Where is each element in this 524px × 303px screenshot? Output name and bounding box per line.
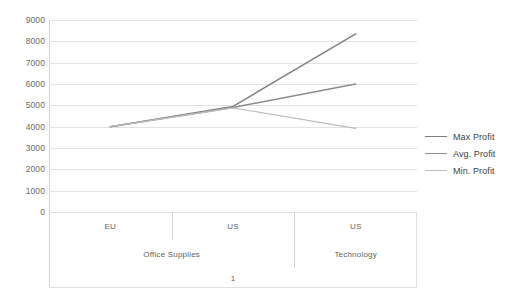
- y-axis-tick-label: 5000: [1, 101, 45, 110]
- category-axis-row: Office SuppliesTechnology: [49, 240, 417, 268]
- series-line: [110, 108, 355, 128]
- legend-item-label: Avg. Profit: [453, 149, 495, 159]
- series-line: [110, 84, 355, 127]
- y-axis-tick-label: 1000: [1, 186, 45, 195]
- category-axis-row: EUUSUS: [49, 212, 417, 240]
- category-axis-label: Technology: [294, 240, 417, 268]
- legend-line-icon: [425, 136, 447, 138]
- y-axis-tick-label: 9000: [1, 16, 45, 25]
- category-axis-table: EUUSUSOffice SuppliesTechnology1: [49, 212, 417, 288]
- legend-item[interactable]: Min. Profit: [425, 162, 524, 179]
- category-axis-label: 1: [49, 268, 417, 288]
- y-axis-tick-label: 2000: [1, 165, 45, 174]
- y-axis-tick-label: 7000: [1, 58, 45, 67]
- line-chart: 9000800070006000500040003000200010000 EU…: [0, 0, 524, 303]
- legend-item-label: Min. Profit: [453, 166, 495, 176]
- legend-item-label: Max Profit: [453, 132, 495, 142]
- y-axis-tick-label: 4000: [1, 122, 45, 131]
- category-axis-row: 1: [49, 268, 417, 288]
- category-axis-label: US: [172, 212, 295, 240]
- category-axis-label: US: [294, 212, 417, 240]
- y-axis-tick-label: 8000: [1, 37, 45, 46]
- category-axis-separator: [172, 212, 173, 240]
- legend-item[interactable]: Max Profit: [425, 128, 524, 145]
- category-axis-label: Office Supplies: [49, 240, 294, 268]
- y-axis-tick-label: 6000: [1, 80, 45, 89]
- category-axis-separator: [294, 212, 295, 268]
- series-lines: [49, 20, 417, 212]
- y-axis: 9000800070006000500040003000200010000: [0, 0, 45, 303]
- plot-area: [49, 20, 417, 212]
- legend-line-icon: [425, 170, 447, 172]
- series-line: [110, 34, 355, 127]
- y-axis-tick-label: 3000: [1, 144, 45, 153]
- legend-item[interactable]: Avg. Profit: [425, 145, 524, 162]
- y-axis-tick-label: 0: [1, 208, 45, 217]
- category-axis-label: EU: [49, 212, 172, 240]
- legend-line-icon: [425, 153, 447, 155]
- legend: Max ProfitAvg. ProfitMin. Profit: [425, 128, 524, 179]
